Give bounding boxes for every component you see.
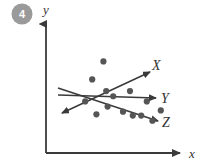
scatter-point	[110, 93, 116, 99]
badge-label: 4	[19, 8, 26, 20]
scatter-point	[120, 109, 126, 115]
scatter-point	[100, 58, 106, 64]
x-axis-label: x	[188, 146, 195, 161]
y-axis-label: y	[41, 2, 49, 17]
scatter-point	[149, 118, 155, 124]
scatter-point	[130, 112, 136, 118]
step-badge: 4	[12, 4, 33, 25]
scatter-point	[103, 88, 109, 94]
scatter-point	[144, 98, 150, 104]
scatter-point	[93, 111, 99, 117]
trendline-y	[58, 95, 156, 98]
scatter-point	[127, 88, 133, 94]
scatter-point	[89, 76, 95, 82]
scatter-plot-figure: 4 y x X Y Z	[0, 0, 206, 168]
plot-canvas: 4 y x X Y Z	[0, 0, 206, 168]
scatter-point	[105, 103, 111, 109]
scatter-point	[158, 107, 164, 113]
trendline-z-label: Z	[162, 115, 170, 130]
trendline-y-label: Y	[161, 91, 171, 106]
trendline-x-label: X	[151, 58, 161, 73]
scatter-point	[82, 98, 88, 104]
scatter-point	[138, 112, 144, 118]
